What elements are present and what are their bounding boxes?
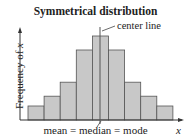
histogram-bar <box>28 106 44 120</box>
chart-root: Symmetrical distribution center line Fre… <box>0 0 191 140</box>
histogram-bar <box>60 82 76 120</box>
center-line-leader <box>102 26 115 31</box>
plot-area <box>0 0 191 140</box>
histogram-bar <box>44 96 60 120</box>
histogram-bar <box>109 50 125 120</box>
histogram-bar <box>157 106 173 120</box>
x-axis-arrow-icon <box>178 118 184 122</box>
histogram-bar <box>125 82 141 120</box>
histogram-bar <box>141 96 157 120</box>
y-axis-arrow-icon <box>18 27 22 33</box>
histogram-bar <box>76 50 92 120</box>
